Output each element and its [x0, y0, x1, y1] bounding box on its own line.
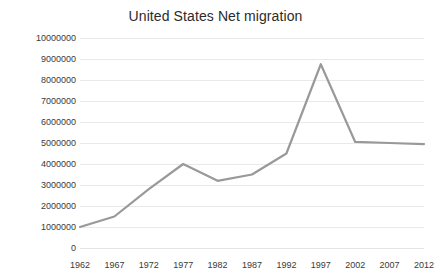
x-tick-label: 2012	[404, 261, 439, 270]
